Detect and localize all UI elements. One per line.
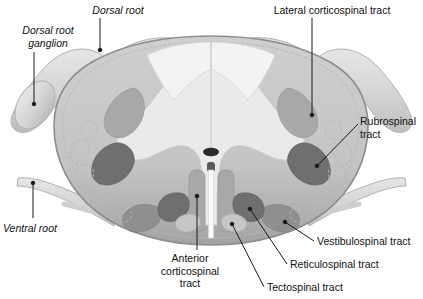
- label-lateral-corticospinal-tract: Lateral corticospinal tract: [243, 4, 421, 17]
- label-dorsal-root: Dorsal root: [62, 4, 174, 17]
- label-rubrospinal-tract: Rubrospinal tract: [360, 115, 422, 140]
- label-vestibulospinal-tract: Vestibulospinal tract: [317, 235, 423, 248]
- label-reticulospinal-tract: Reticulospinal tract: [290, 258, 410, 271]
- label-ventral-root: Ventral root: [3, 222, 89, 235]
- central-canal: [203, 148, 219, 156]
- spinal-cord-figure: Dorsal root Dorsal root ganglion Lateral…: [0, 0, 423, 299]
- label-tectospinal-tract: Tectospinal tract: [267, 281, 377, 294]
- label-dorsal-root-ganglion: Dorsal root ganglion: [2, 24, 94, 49]
- label-anterior-corticospinal-tract: Anterior corticospinal tract: [146, 252, 234, 290]
